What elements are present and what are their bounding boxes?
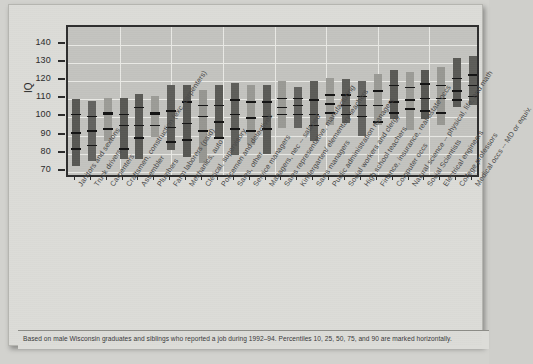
x-axis-tick — [471, 177, 472, 180]
x-axis-tick — [296, 177, 297, 180]
footnote-text: Based on male Wisconsin graduates and si… — [23, 334, 485, 344]
x-axis-tick — [455, 177, 456, 180]
x-axis-tick — [106, 177, 107, 180]
x-axis-tick — [280, 177, 281, 180]
x-axis-tick — [408, 177, 409, 180]
x-axis-tick — [376, 177, 377, 180]
x-axis-tick — [217, 177, 218, 180]
x-axis-tick — [201, 177, 202, 180]
x-axis-tick — [265, 177, 266, 180]
x-axis-tick — [312, 177, 313, 180]
x-axis-tick — [328, 177, 329, 180]
x-axis-tick — [137, 177, 138, 180]
x-axis-tick — [249, 177, 250, 180]
x-axis-tick — [360, 177, 361, 180]
x-axis-tick — [344, 177, 345, 180]
x-axis-tick — [439, 177, 440, 180]
figure-paper: 708090100110120130140 IQ Janitors and se… — [8, 4, 483, 346]
x-axis-tick — [122, 177, 123, 180]
x-axis-tick — [153, 177, 154, 180]
x-axis-tick — [233, 177, 234, 180]
x-axis-tick — [185, 177, 186, 180]
x-axis-tick — [423, 177, 424, 180]
x-axis-tick — [90, 177, 91, 180]
x-axis-tick — [169, 177, 170, 180]
x-axis-tick — [392, 177, 393, 180]
x-axis-labels: Janitors and sextonsTruck driversCarpent… — [9, 5, 498, 364]
x-axis-tick — [74, 177, 75, 180]
